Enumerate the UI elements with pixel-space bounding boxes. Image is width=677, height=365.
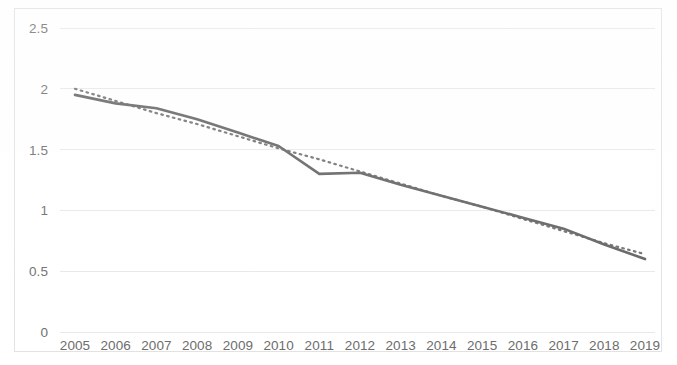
gridlines [60, 28, 655, 332]
x-tick-label: 2007 [141, 338, 171, 353]
x-tick-label: 2013 [385, 338, 415, 353]
x-tick-label: 2006 [100, 338, 130, 353]
x-tick-label: 2016 [508, 338, 538, 353]
x-tick-label: 2019 [630, 338, 660, 353]
x-tick-label: 2015 [467, 338, 497, 353]
x-tick-label: 2012 [345, 338, 375, 353]
x-tick-label: 2017 [548, 338, 578, 353]
y-tick-label: 2.5 [14, 21, 48, 36]
x-tick-label: 2005 [60, 338, 90, 353]
x-tick-label: 2011 [305, 338, 334, 353]
x-tick-label: 2008 [182, 338, 212, 353]
series-value-line [75, 95, 645, 259]
x-tick-label: 2009 [223, 338, 253, 353]
y-tick-label: 0 [14, 325, 48, 340]
line-chart: 00.511.522.5 200520062007200820092010201… [0, 0, 677, 365]
chart-plot-area [0, 0, 677, 365]
x-tick-label: 2018 [589, 338, 619, 353]
y-tick-label: 1 [14, 203, 48, 218]
x-tick-label: 2010 [263, 338, 293, 353]
y-tick-label: 0.5 [14, 264, 48, 279]
x-tick-label: 2014 [426, 338, 456, 353]
y-tick-label: 1.5 [14, 142, 48, 157]
y-tick-label: 2 [14, 81, 48, 96]
